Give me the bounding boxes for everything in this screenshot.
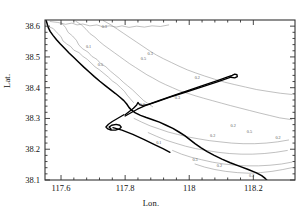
x-tick-label: 117.8 [116, 183, 135, 193]
contour-label: 0.2 [210, 133, 215, 138]
contour-label: 0.1 [86, 44, 91, 49]
contour-line [48, 26, 134, 102]
y-tick-label: 38.5 [25, 52, 40, 62]
contour-label: 0.2 [195, 75, 200, 80]
y-tick-label: 38.6 [25, 21, 40, 31]
y-tick-label: 38.1 [25, 175, 40, 185]
x-tick-label: 118 [183, 183, 195, 193]
x-axis-label: Lon. [0, 198, 302, 208]
series-transect-branch-south [113, 128, 170, 153]
x-tick-label: 118.2 [244, 183, 263, 193]
x-tick-label: 117.6 [52, 183, 71, 193]
contour-label: 0.5 [98, 62, 103, 67]
contour-line [195, 164, 292, 173]
contour-label: 0.1 [156, 140, 161, 145]
contour-label: 0.2 [275, 135, 280, 140]
series-coastline [46, 20, 267, 180]
y-tick-label: 38.4 [25, 83, 41, 93]
contour-label: 0.3 [175, 95, 180, 100]
contour-label: 0.2 [231, 123, 236, 128]
contour-label: 0.5 [141, 56, 146, 61]
contour-line [103, 21, 291, 95]
y-axis-label: Lat. [2, 74, 12, 88]
y-tick-label: 38.3 [25, 113, 40, 123]
coastline-and-transects-layer [46, 20, 267, 180]
axis-layer [45, 20, 295, 180]
axis-ticks [45, 20, 295, 180]
y-tick-label: 38.2 [25, 144, 40, 154]
figure-container: 0.30.10.30.50.50.20.30.20.20.50.20.10.30… [0, 0, 302, 213]
contour-label: 0.2 [139, 102, 144, 107]
contour-line [148, 133, 287, 155]
plot-frame [45, 20, 295, 180]
contour-map-plot: 0.30.10.30.50.50.20.30.20.20.50.20.10.30… [0, 0, 302, 213]
contour-line [76, 21, 292, 119]
contour-label: 0.3 [148, 51, 153, 56]
contour-label: 0.3 [192, 157, 197, 162]
contour-line [61, 22, 153, 106]
contour-label: 0.5 [247, 129, 252, 134]
contour-value-labels: 0.30.10.30.50.50.20.30.20.20.50.20.10.30… [86, 24, 281, 178]
contour-label: 0.3 [102, 24, 107, 29]
contour-label: 0.2 [217, 163, 222, 168]
